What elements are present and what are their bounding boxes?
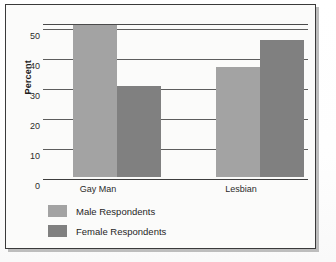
x-axis-label-lesbian: Lesbian <box>196 184 286 194</box>
chart-figure-frame: Percent 50 40 30 20 10 0 <box>5 4 316 249</box>
chart-legend: Male Respondents Female Respondents <box>48 201 166 241</box>
legend-swatch-male-icon <box>48 205 67 217</box>
y-tick-label-40: 40 <box>30 61 40 71</box>
legend-item-female-respondents: Female Respondents <box>48 221 166 241</box>
bar-gay-man-female <box>117 86 161 177</box>
y-tick-label-20: 20 <box>30 121 40 131</box>
legend-label-female-respondents: Female Respondents <box>76 226 166 237</box>
legend-swatch-female-icon <box>48 225 67 237</box>
figure-page: Percent 50 40 30 20 10 0 <box>0 0 336 262</box>
y-tick-label-10: 10 <box>30 151 40 161</box>
legend-label-male-respondents: Male Respondents <box>76 206 155 217</box>
bar-lesbian-male <box>216 67 260 177</box>
legend-item-male-respondents: Male Respondents <box>48 201 166 221</box>
y-tick-label-0: 0 <box>35 181 40 191</box>
bar-gay-man-male <box>73 25 117 177</box>
bar-lesbian-female <box>260 40 304 177</box>
y-tick-label-50: 50 <box>30 31 40 41</box>
x-axis-label-gay-man: Gay Man <box>53 184 143 194</box>
y-tick-label-30: 30 <box>30 91 40 101</box>
gridline-baseline-0: 0 <box>43 179 308 180</box>
plot-area: 50 40 30 20 10 0 <box>43 24 308 180</box>
